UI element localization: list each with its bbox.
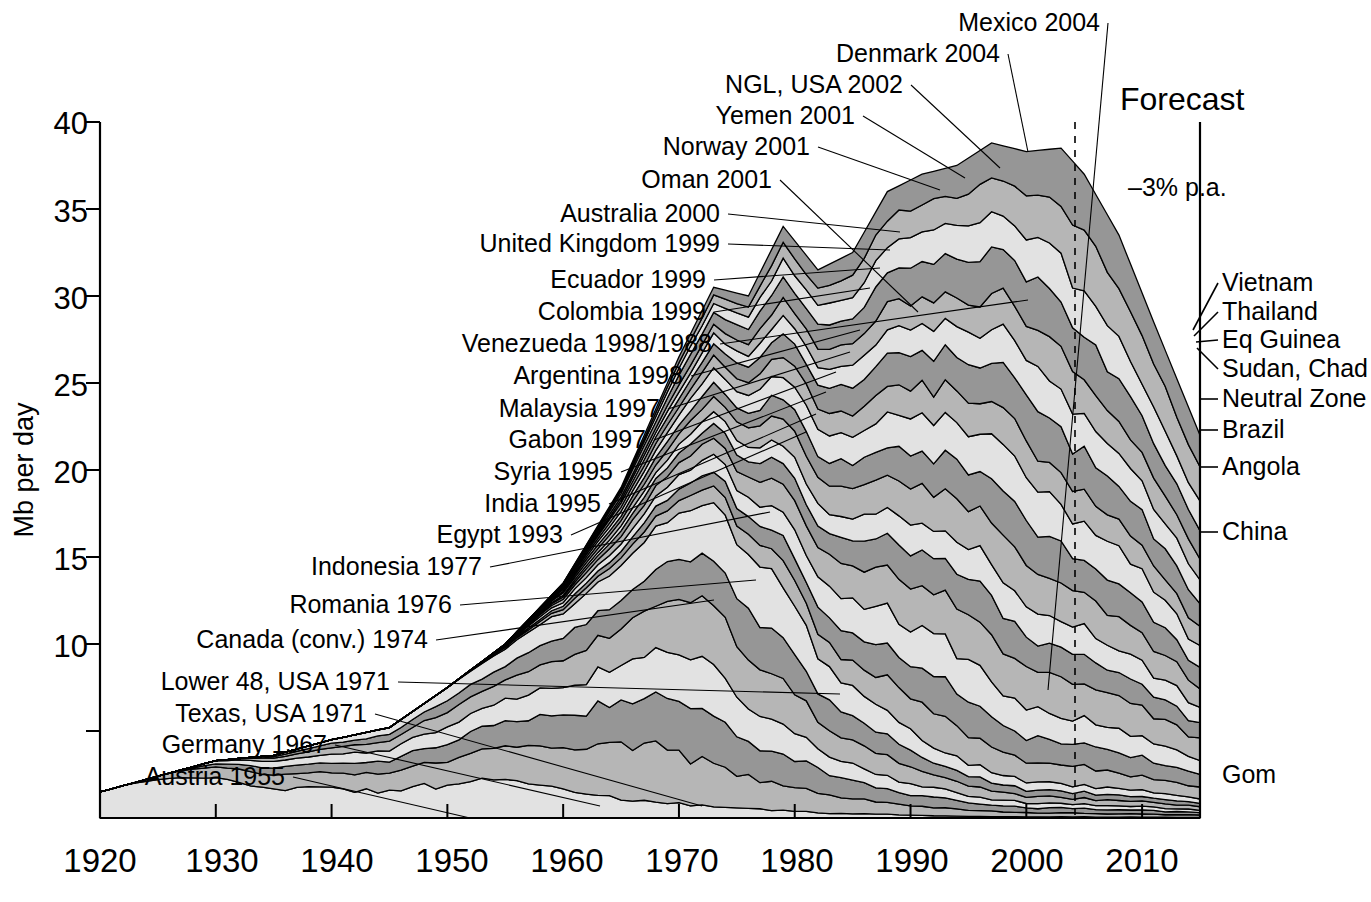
callout-china: China [1222, 517, 1287, 545]
y-tick-30: 30 [54, 281, 88, 316]
callout-sudan-chad: Sudan, Chad [1222, 354, 1368, 382]
callout-brazil: Brazil [1222, 415, 1285, 443]
callout-oman: Oman 2001 [641, 165, 772, 193]
callout-australia: Australia 2000 [560, 199, 720, 227]
x-tick-1940: 1940 [300, 842, 373, 879]
callout-germany: Germany 1967 [162, 730, 327, 758]
callout-uk: United Kingdom 1999 [480, 229, 720, 257]
callout-ngl-usa: NGL, USA 2002 [725, 70, 903, 98]
callout-austria: Austria 1955 [145, 762, 285, 790]
x-tick-1930: 1930 [185, 842, 258, 879]
callout-gom: Gom [1222, 760, 1276, 788]
callout-vietnam: Vietnam [1222, 268, 1313, 296]
callout-indonesia: Indonesia 1977 [311, 552, 482, 580]
callout-india: India 1995 [484, 489, 601, 517]
x-tick-1970: 1970 [645, 842, 718, 879]
callout-mexico: Mexico 2004 [958, 8, 1100, 36]
callout-romania: Romania 1976 [289, 590, 452, 618]
x-tick-1980: 1980 [760, 842, 833, 879]
y-tick-15: 15 [54, 542, 88, 577]
callout-malaysia: Malaysia 1997 [499, 394, 660, 422]
callout-gabon: Gabon 1997 [508, 425, 646, 453]
y-axis-title: Mb per day [9, 402, 39, 538]
callout-denmark: Denmark 2004 [836, 39, 1000, 67]
callout-syria: Syria 1995 [493, 457, 613, 485]
callout-yemen: Yemen 2001 [716, 101, 855, 129]
callout-venezuela: Venezueda 1998/1988 [462, 329, 712, 357]
chart-root: 40 35 30 25 20 15 10 Mb per day 1920 193… [0, 0, 1371, 902]
forecast-label: Forecast [1120, 81, 1245, 117]
x-tick-2010: 2010 [1105, 842, 1178, 879]
callout-norway: Norway 2001 [663, 132, 810, 160]
callout-eq-guinea: Eq Guinea [1222, 325, 1340, 353]
y-tick-25: 25 [54, 368, 88, 403]
y-tick-20: 20 [54, 455, 88, 490]
x-tick-1920: 1920 [63, 842, 136, 879]
callout-angola: Angola [1222, 452, 1300, 480]
x-tick-1960: 1960 [530, 842, 603, 879]
callout-lower48: Lower 48, USA 1971 [161, 667, 390, 695]
callout-canada: Canada (conv.) 1974 [196, 625, 428, 653]
callout-texas: Texas, USA 1971 [175, 699, 367, 727]
x-tick-1990: 1990 [875, 842, 948, 879]
callout-thailand: Thailand [1222, 297, 1318, 325]
oil-production-stacked-area-chart: 40 35 30 25 20 15 10 Mb per day 1920 193… [0, 0, 1371, 902]
y-tick-40: 40 [54, 106, 88, 141]
y-tick-35: 35 [54, 194, 88, 229]
x-tick-2000: 2000 [990, 842, 1063, 879]
callout-neutral-zone: Neutral Zone [1222, 384, 1367, 412]
callout-egypt: Egypt 1993 [437, 520, 564, 548]
y-tick-10: 10 [54, 629, 88, 664]
x-tick-1950: 1950 [415, 842, 488, 879]
callout-colombia: Colombia 1999 [538, 297, 706, 325]
callout-argentina: Argentina 1998 [513, 361, 683, 389]
callout-ecuador: Ecuador 1999 [550, 265, 706, 293]
decline-rate-label: –3% p.a. [1128, 173, 1227, 201]
